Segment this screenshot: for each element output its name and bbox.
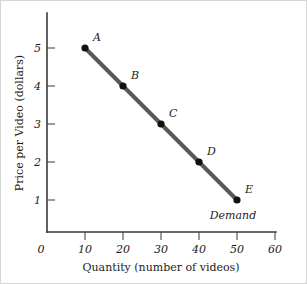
data-point-b bbox=[119, 82, 126, 89]
y-tick-label-5: 5 bbox=[34, 42, 41, 55]
demand-curve-figure: 5 4 3 2 1 0 10 20 30 40 50 60 Quantity (… bbox=[0, 0, 307, 284]
y-tick-label-3: 3 bbox=[34, 118, 41, 131]
x-tick-label-60: 60 bbox=[268, 243, 282, 256]
data-point-a bbox=[81, 44, 88, 51]
x-tick-label-40: 40 bbox=[191, 243, 206, 256]
data-point-label-a: A bbox=[92, 31, 101, 44]
x-tick-label-20: 20 bbox=[115, 243, 130, 256]
data-point-label-e: E bbox=[244, 183, 253, 196]
data-point-d bbox=[195, 158, 202, 165]
x-tick-label-30: 30 bbox=[154, 243, 168, 256]
x-axis-title: Quantity (number of videos) bbox=[82, 261, 239, 274]
demand-series-label: Demand bbox=[209, 209, 256, 222]
data-point-label-c: C bbox=[169, 107, 178, 120]
x-tick-label-50: 50 bbox=[230, 243, 244, 256]
data-point-label-b: B bbox=[130, 69, 139, 82]
y-tick-label-4: 4 bbox=[33, 80, 41, 93]
y-axis-title: Price per Video (dollars) bbox=[13, 55, 26, 191]
data-point-e bbox=[233, 196, 240, 203]
y-tick-label-1: 1 bbox=[34, 194, 41, 207]
demand-curve-chart: 5 4 3 2 1 0 10 20 30 40 50 60 Quantity (… bbox=[1, 1, 307, 284]
y-tick-label-2: 2 bbox=[33, 156, 41, 169]
x-tick-label-10: 10 bbox=[78, 243, 92, 256]
x-tick-label-0: 0 bbox=[38, 243, 45, 256]
data-point-c bbox=[157, 120, 164, 127]
data-point-label-d: D bbox=[206, 145, 216, 158]
